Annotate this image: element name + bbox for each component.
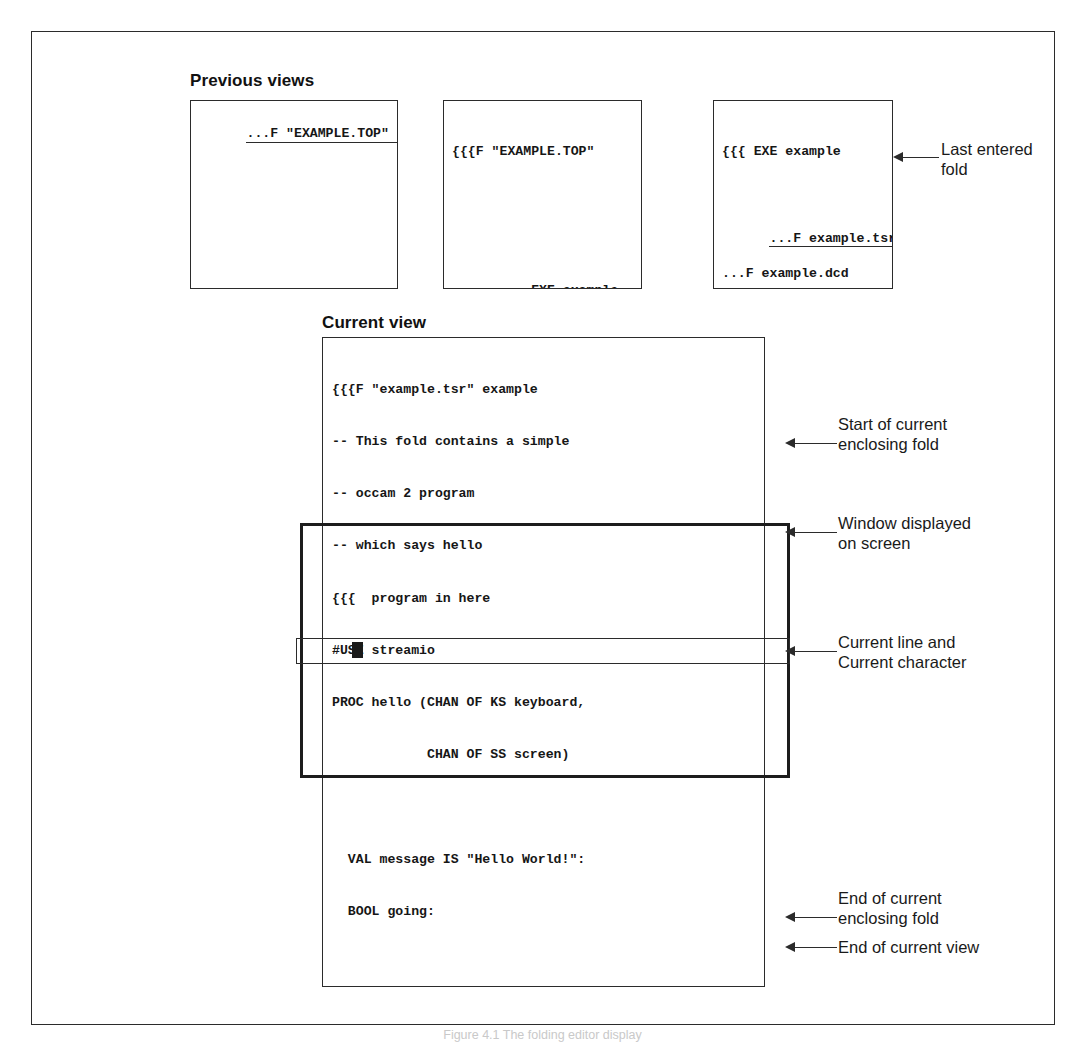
code-line: #USE streamio (332, 642, 672, 659)
leader-line-last-entered-fold (901, 157, 939, 158)
annotation-end-current-view: End of current view (838, 938, 979, 958)
code-line: {{{F "example.tsr" example (332, 381, 672, 398)
code-line: VAL message IS "Hello World!": (332, 851, 672, 868)
previous-view-box-2: {{{F "EXAMPLE.TOP" ... EXE example }}} (443, 100, 642, 289)
code-line-blank (452, 195, 618, 212)
current-view-heading: Current view (322, 313, 426, 333)
arrow-icon-last-entered-fold (893, 152, 903, 162)
previous-views-heading: Previous views (190, 71, 314, 91)
leader-line-end-enclosing-fold (793, 917, 837, 918)
code-line: ...F example.tsr (769, 230, 893, 247)
current-view-box: {{{F "example.tsr" example -- This fold … (322, 337, 765, 987)
leader-line-window-displayed (793, 532, 837, 533)
code-line-blank (722, 195, 893, 212)
code-line: PROC hello (CHAN OF KS keyboard, (332, 694, 672, 711)
code-line: -- which says hello (332, 537, 672, 554)
annotation-end-enclosing-fold: End of current enclosing fold (838, 889, 942, 928)
figure-caption: Figure 4.1 The folding editor display (0, 1028, 1085, 1042)
annotation-start-enclosing-fold: Start of current enclosing fold (838, 415, 947, 454)
annotation-window-displayed: Window displayed on screen (838, 514, 971, 553)
code-line: ... EXE example (499, 282, 642, 289)
leader-line-start-enclosing-fold (793, 443, 837, 444)
code-line: {{{ program in here (332, 590, 672, 607)
cursor-block (352, 642, 363, 658)
previous-view-3-code: {{{ EXE example ...F example.tsr ...F ex… (722, 108, 893, 289)
previous-view-box-1: ...F "EXAMPLE.TOP" (190, 100, 398, 289)
annotation-current-line-char: Current line and Current character (838, 633, 966, 672)
previous-view-box-3: {{{ EXE example ...F example.tsr ...F ex… (713, 100, 893, 289)
code-line: ...F example.dcd (722, 265, 893, 282)
code-line-blank (452, 247, 618, 264)
leader-line-current-line-char (793, 651, 837, 652)
code-line: ...F "EXAMPLE.TOP" (246, 125, 398, 142)
arrow-icon-end-enclosing-fold (785, 912, 795, 922)
previous-view-1-code: ...F "EXAMPLE.TOP" (199, 108, 389, 160)
code-line: -- occam 2 program (332, 485, 672, 502)
annotation-last-entered-fold: Last entered fold (941, 140, 1033, 179)
current-view-code: {{{F "example.tsr" example -- This fold … (332, 346, 672, 987)
leader-line-end-current-view (793, 947, 837, 948)
code-line: BOOL going: (332, 903, 672, 920)
code-line: -- This fold contains a simple (332, 433, 672, 450)
code-line-blank (332, 798, 672, 815)
arrow-icon-current-line-char (785, 646, 795, 656)
arrow-icon-window-displayed (785, 527, 795, 537)
arrow-icon-start-enclosing-fold (785, 438, 795, 448)
code-line: {{{F "EXAMPLE.TOP" (452, 143, 618, 160)
code-line-blank (332, 955, 672, 972)
figure-canvas: Previous views ...F "EXAMPLE.TOP" {{{F "… (0, 0, 1085, 1051)
previous-view-2-code: {{{F "EXAMPLE.TOP" ... EXE example }}} (452, 108, 618, 289)
code-line: {{{ EXE example (722, 143, 893, 160)
code-line: CHAN OF SS screen) (332, 746, 672, 763)
arrow-icon-end-current-view (785, 942, 795, 952)
